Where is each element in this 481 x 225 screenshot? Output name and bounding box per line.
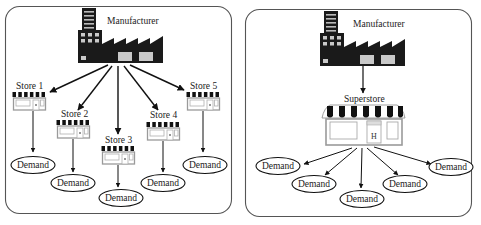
store-5-label: Store 5 [190, 81, 217, 91]
left-panel-decentralized: Manufacturer Store 1 Demand Store 2 Dema… [6, 7, 232, 214]
store-5-demand-label: Demand [189, 160, 221, 170]
demand-node-1: Demand [256, 158, 300, 175]
store-1-label: Store 1 [16, 81, 43, 91]
demand-node-3: Demand [340, 191, 384, 208]
store-2-demand-label: Demand [57, 178, 89, 188]
store-3-demand-label: Demand [105, 193, 137, 203]
superstore-icon: H [322, 105, 405, 145]
store-1-icon [12, 92, 47, 110]
demand-label: Demand [346, 194, 378, 204]
store-4-icon [146, 122, 181, 140]
store-2-label: Store 2 [61, 109, 88, 119]
store-4-demand-label: Demand [147, 178, 179, 188]
manufacturer-label: Manufacturer [353, 19, 406, 29]
superstore-label: Superstore [344, 94, 385, 104]
demand-label: Demand [298, 179, 330, 189]
demand-label: Demand [262, 161, 294, 171]
demand-node-2: Demand [292, 176, 336, 193]
store-5-icon [186, 92, 221, 110]
demand-node-5: Demand [429, 159, 473, 176]
right-panel-centralized: Manufacturer Superstore H [246, 10, 474, 217]
store-4-label: Store 4 [150, 110, 177, 120]
door-glyph: H [371, 132, 377, 141]
store-1-demand-label: Demand [17, 160, 49, 170]
store-2-icon [56, 120, 91, 138]
manufacturer-label: Manufacturer [107, 16, 160, 26]
demand-label: Demand [435, 162, 467, 172]
store-3-label: Store 3 [105, 135, 132, 145]
supply-chain-diagram: Manufacturer Store 1 Demand Store 2 Dema… [0, 0, 481, 225]
demand-label: Demand [389, 179, 421, 189]
demand-node-4: Demand [383, 176, 427, 193]
store-3-icon [101, 146, 136, 164]
